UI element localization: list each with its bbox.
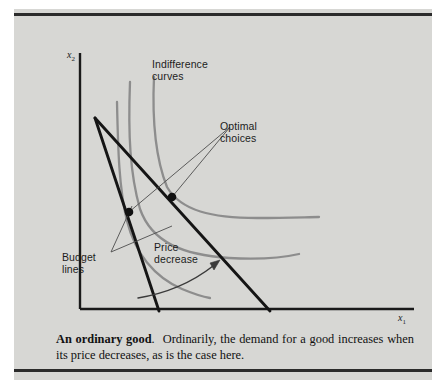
figure-panel: x2 x1 Indifference curves Optimal choice…: [14, 9, 432, 380]
indifference-curve-2: [129, 82, 299, 259]
optimal-choices-label: Optimal choices: [220, 121, 257, 144]
budget-lines-group: [95, 118, 270, 311]
budget-line-low-price: [95, 118, 270, 311]
optimal-choice-point-b: [168, 193, 177, 202]
y-axis-label-sub: 2: [71, 55, 75, 63]
caption-period: .: [152, 332, 155, 346]
x-axis-label: x1: [398, 312, 406, 326]
indifference-curves-label: Indifference curves: [152, 59, 208, 82]
price-decrease-arrow-head: [210, 260, 220, 270]
caption-title: An ordinary good: [56, 332, 152, 346]
optimal-choice-point-a: [125, 208, 134, 217]
figure-caption: An ordinary good.Ordinarily, the demand …: [56, 331, 414, 363]
optimal-choices-leaders: [129, 127, 230, 212]
plot-area: [14, 9, 432, 380]
optimal-choice-points: [125, 193, 177, 217]
indifference-curve-3: [153, 77, 319, 218]
indifference-curve-1: [117, 102, 210, 298]
leader-optimal-a: [129, 127, 230, 212]
price-decrease-label: Price decrease: [154, 242, 198, 265]
x-axis-label-sub: 1: [402, 318, 406, 326]
y-axis-label: x2: [67, 49, 75, 63]
figure-page: x2 x1 Indifference curves Optimal choice…: [0, 0, 446, 391]
budget-lines-label: Budget lines: [62, 252, 96, 275]
indifference-curves-group: [117, 77, 319, 298]
